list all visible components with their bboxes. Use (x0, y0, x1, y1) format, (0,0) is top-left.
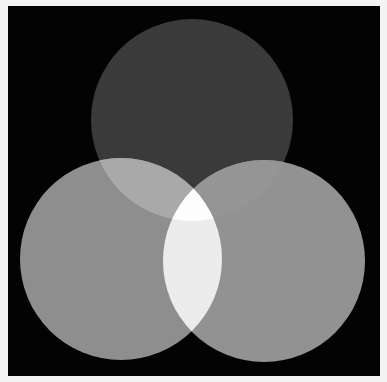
venn-diagram (0, 0, 387, 382)
venn-diagram-canvas (0, 0, 387, 382)
